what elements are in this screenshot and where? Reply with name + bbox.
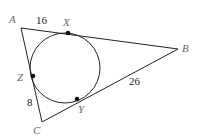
label-by: 26: [129, 75, 141, 87]
point-x: [66, 31, 71, 36]
label-c: C: [33, 124, 41, 136]
label-ax: 16: [36, 14, 48, 26]
label-z: Z: [17, 71, 24, 83]
label-b: B: [182, 42, 189, 54]
label-y: Y: [78, 103, 86, 115]
geometry-diagram: A B C X Z Y 16 8 26: [0, 0, 201, 137]
point-z: [31, 74, 36, 79]
inscribed-circle: [30, 33, 100, 103]
label-x: X: [62, 16, 71, 28]
label-cz: 8: [27, 96, 33, 108]
point-y: [75, 97, 80, 102]
label-a: A: [8, 13, 16, 25]
